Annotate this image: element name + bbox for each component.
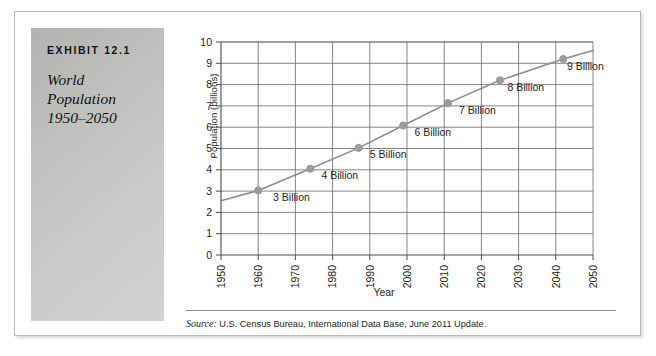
exhibit-number: EXHIBIT 12.1 bbox=[47, 44, 131, 56]
x-tick-label: 1960 bbox=[252, 265, 264, 289]
data-point-annotation: 5 Billion bbox=[370, 148, 407, 160]
y-tick-label: 2 bbox=[206, 206, 212, 218]
exhibit-figure-card: EXHIBIT 12.1 World Population 1950–2050 … bbox=[14, 11, 641, 336]
x-tick-label: 2000 bbox=[401, 265, 413, 289]
data-point-marker bbox=[355, 144, 362, 151]
exhibit-title: World Population 1950–2050 bbox=[47, 70, 157, 127]
x-tick-label: 1990 bbox=[364, 265, 376, 289]
x-tick-label: 2030 bbox=[512, 265, 524, 289]
source-divider bbox=[186, 310, 616, 311]
source-text: U.S. Census Bureau, International Data B… bbox=[217, 319, 487, 329]
data-point-annotation: 8 Billion bbox=[507, 81, 544, 93]
exhibit-title-panel: EXHIBIT 12.1 World Population 1950–2050 bbox=[31, 28, 164, 321]
x-tick-label: 2010 bbox=[438, 265, 450, 289]
x-tick-label: 2040 bbox=[550, 265, 562, 289]
x-tick-label: 1980 bbox=[326, 265, 338, 289]
x-tick-label: 1970 bbox=[289, 265, 301, 289]
source-prefix: Source: bbox=[186, 318, 217, 329]
data-point-marker bbox=[255, 187, 262, 194]
chart-gridlines bbox=[221, 42, 593, 255]
data-point-marker bbox=[307, 165, 314, 172]
data-point-annotation: 6 Billion bbox=[414, 126, 451, 138]
data-point-annotation: 4 Billion bbox=[321, 169, 358, 181]
data-point-annotations: 3 Billion4 Billion5 Billion6 Billion7 Bi… bbox=[273, 60, 604, 203]
y-tick-label: 3 bbox=[206, 185, 212, 197]
y-tick-label: 10 bbox=[200, 36, 212, 48]
x-axis-title: Year bbox=[164, 286, 604, 298]
x-tick-label: 1950 bbox=[215, 265, 227, 289]
exhibit-title-line-1: World bbox=[47, 70, 157, 89]
line-chart: 012345678910 195019601970198019902000201… bbox=[164, 28, 642, 321]
y-tick-label: 1 bbox=[206, 227, 212, 239]
data-point-marker bbox=[400, 122, 407, 129]
data-point-marker bbox=[560, 55, 567, 62]
data-point-marker bbox=[444, 100, 451, 107]
data-point-annotation: 9 Billion bbox=[567, 60, 604, 72]
data-point-annotation: 3 Billion bbox=[273, 191, 310, 203]
y-tick-label: 0 bbox=[206, 249, 212, 261]
x-axis-tick-labels: 1950196019701980199020002010202020302040… bbox=[215, 265, 599, 289]
x-tick-label: 2020 bbox=[475, 265, 487, 289]
exhibit-title-line-2: Population bbox=[47, 89, 157, 108]
data-point-annotation: 7 Billion bbox=[459, 104, 496, 116]
source-note: Source: U.S. Census Bureau, Internationa… bbox=[186, 318, 486, 329]
exhibit-title-line-3: 1950–2050 bbox=[47, 108, 157, 127]
y-axis-title: Population (billions) bbox=[208, 56, 219, 176]
x-tick-label: 2050 bbox=[587, 265, 599, 289]
data-point-marker bbox=[496, 77, 503, 84]
chart-region: 012345678910 195019601970198019902000201… bbox=[164, 28, 642, 321]
